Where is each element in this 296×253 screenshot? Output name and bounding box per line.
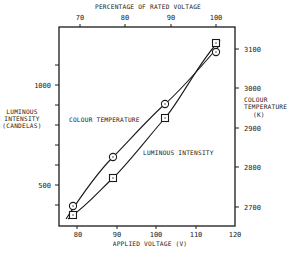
right-tick-label: 3100: [244, 46, 261, 54]
chart: PERCENTAGE OF RATED VOLTAGE 70 80 90 100…: [0, 0, 296, 253]
left-ticks: 1000 500: [34, 65, 59, 205]
right-tick-label: 3000: [244, 85, 261, 93]
right-tick-label: 2700: [244, 204, 261, 212]
x-tick-label: 120: [229, 231, 242, 239]
right-tick-label: 2900: [244, 125, 261, 133]
right-axis-label: COLOUR TEMPERATURE (K): [244, 96, 287, 118]
annotation-luminous-intensity: LUMINOUS INTENSITY: [143, 149, 214, 156]
luminous-intensity-markers: [70, 40, 220, 219]
left-tick-label: 500: [38, 182, 51, 190]
x-tick-label: 80: [74, 231, 82, 239]
colour-temperature-markers: [69, 48, 219, 209]
x-ticks: 80 90 100 110 120: [74, 226, 242, 239]
top-axis-label: PERCENTAGE OF RATED VOLTAGE: [95, 3, 201, 10]
svg-text:INTENSITY: INTENSITY: [4, 115, 39, 122]
right-ticks: 3100 3000 2900 2800 2700: [235, 46, 261, 212]
x-tick-label: 100: [150, 231, 163, 239]
top-tick-label: 90: [167, 14, 175, 22]
top-ticks: 70 80 90 100: [76, 14, 223, 27]
top-tick-label: 70: [76, 14, 84, 22]
x-axis-label: APPLIED VOLTAGE (V): [113, 240, 188, 247]
svg-text:(K): (K): [253, 111, 265, 118]
right-tick-label: 2800: [244, 164, 261, 172]
svg-text:LUMINOUS: LUMINOUS: [6, 108, 37, 115]
svg-text:(CANDELAS): (CANDELAS): [2, 122, 41, 129]
left-axis-label: LUMINOUS INTENSITY (CANDELAS): [2, 108, 41, 129]
left-tick-label: 1000: [34, 82, 51, 90]
luminous-intensity-curve: [68, 40, 220, 219]
x-tick-label: 110: [190, 231, 203, 239]
plot-frame: [59, 27, 235, 226]
top-tick-label: 100: [210, 14, 223, 22]
top-tick-label: 80: [121, 14, 129, 22]
svg-text:TEMPERATURE: TEMPERATURE: [244, 103, 287, 110]
annotation-colour-temperature: COLOUR TEMPERATURE: [69, 116, 140, 123]
svg-text:COLOUR: COLOUR: [244, 96, 268, 103]
x-tick-label: 90: [113, 231, 121, 239]
